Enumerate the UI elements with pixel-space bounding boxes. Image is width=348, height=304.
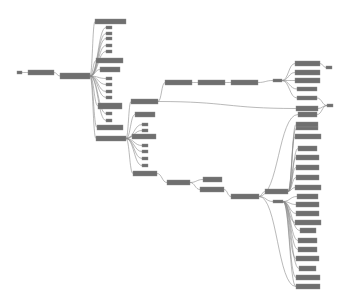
graph-node[interactable] [295,134,321,139]
graph-node[interactable] [133,171,157,176]
graph-node[interactable] [142,129,148,132]
graph-node[interactable] [295,220,321,225]
graph-node[interactable] [231,194,259,199]
graph-node[interactable] [106,50,112,53]
graph-node[interactable] [296,256,319,261]
graph-node[interactable] [142,144,148,147]
edge [282,64,295,81]
graph-node[interactable] [97,125,123,130]
graph-node[interactable] [106,83,112,86]
graph-node[interactable] [60,73,90,79]
graph-node[interactable] [142,164,148,167]
edge [126,102,131,139]
graph-node[interactable] [265,189,288,194]
edge [126,139,142,166]
graph-node[interactable] [142,157,148,160]
edge [190,183,200,190]
graph-node[interactable] [273,200,283,203]
edge [259,197,273,202]
edge [190,180,203,183]
graph-node[interactable] [297,96,317,100]
graph-node[interactable] [296,127,318,130]
graph-node[interactable] [298,112,317,117]
graph-node[interactable] [296,106,318,111]
edge-layer [22,22,327,287]
graph-node[interactable] [295,185,321,190]
graph-node[interactable] [106,26,112,29]
graph-node[interactable] [142,150,148,153]
graph-node[interactable] [142,123,148,126]
graph-node[interactable] [200,187,224,192]
graph-node[interactable] [106,44,112,47]
edge [317,106,327,115]
graph-node[interactable] [96,58,123,63]
graph-node[interactable] [298,238,317,243]
graph-node[interactable] [299,266,316,271]
graph-node[interactable] [296,284,320,289]
edge [54,73,60,77]
graph-node[interactable] [198,80,225,85]
edge [282,81,297,90]
graph-node[interactable] [165,80,192,85]
graph-node[interactable] [327,104,333,107]
graph-node[interactable] [106,96,112,99]
graph-node[interactable] [28,70,54,75]
graph-node[interactable] [95,19,126,24]
graph-node[interactable] [106,90,112,93]
graph-node[interactable] [106,77,112,80]
edge [224,190,231,197]
graph-node[interactable] [297,87,317,91]
graph-node[interactable] [167,180,190,185]
graph-node[interactable] [98,103,122,109]
graph-node[interactable] [296,275,320,280]
edge [317,98,327,106]
graph-node[interactable] [295,70,320,75]
node-layer [17,19,333,289]
graph-node[interactable] [106,112,112,115]
edge [157,174,167,183]
edge [259,197,296,287]
graph-node[interactable] [273,79,282,82]
graph-node[interactable] [296,155,319,160]
graph-node[interactable] [132,134,156,139]
graph-node[interactable] [96,136,126,141]
edge [282,81,297,99]
graph-node[interactable] [297,194,318,199]
graph-node[interactable] [295,78,320,83]
graph-node[interactable] [106,37,112,40]
graph-node[interactable] [300,228,316,233]
edge [158,102,296,109]
graph-node[interactable] [296,175,319,180]
graph-node[interactable] [231,80,258,85]
diagram-canvas [0,0,348,304]
graph-node[interactable] [17,71,22,74]
graph-node[interactable] [296,211,319,216]
graph-node[interactable] [131,99,158,104]
graph-node[interactable] [296,165,319,170]
graph-node[interactable] [298,146,317,151]
graph-node[interactable] [295,61,320,66]
tree-graph [0,0,348,304]
graph-node[interactable] [203,177,222,182]
graph-node[interactable] [296,122,318,127]
graph-node[interactable] [106,32,112,35]
graph-node[interactable] [296,202,319,207]
edge [282,73,295,81]
graph-node[interactable] [106,119,112,122]
graph-node[interactable] [298,247,317,252]
edge [283,197,297,202]
graph-node[interactable] [100,67,120,72]
edge [158,83,165,102]
edge [258,81,273,83]
graph-node[interactable] [135,112,155,117]
edge [320,64,326,68]
edge [90,22,95,77]
graph-node[interactable] [326,66,332,69]
